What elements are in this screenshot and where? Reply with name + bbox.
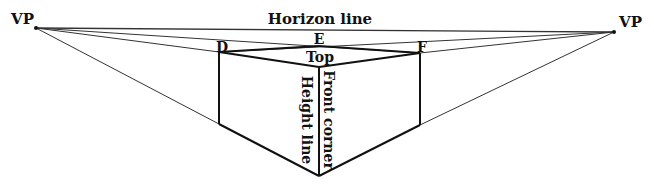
point-f-label: F [417, 39, 427, 55]
horizon-line [36, 28, 614, 32]
top-edge-back-to-f [319, 46, 420, 53]
top-edge-d-to-front [219, 52, 319, 67]
point-e-label: E [314, 31, 325, 47]
construction-line-right-vp-to-bottom-right [420, 32, 614, 125]
top-edge-d-to-back [219, 46, 319, 52]
point-d-label: D [216, 39, 228, 55]
construction-line-left-vp-to-d [36, 28, 219, 52]
construction-line-right-vp-to-f [420, 32, 614, 53]
height-line-label: Height line [299, 76, 315, 165]
top-face-label: Top [306, 49, 334, 65]
perspective-diagram: VP VP Horizon line D E F Top Height line… [0, 0, 654, 188]
vanishing-point-left-dot [34, 26, 38, 30]
top-edge-front-to-f [319, 53, 420, 67]
vp-right-label: VP [618, 13, 642, 31]
vp-left-label: VP [10, 10, 34, 28]
front-corner-label: Front corner [321, 70, 337, 170]
horizon-line-label: Horizon line [268, 10, 372, 28]
vanishing-point-right-dot [612, 30, 616, 34]
construction-line-left-vp-to-bottom-left [36, 28, 219, 124]
